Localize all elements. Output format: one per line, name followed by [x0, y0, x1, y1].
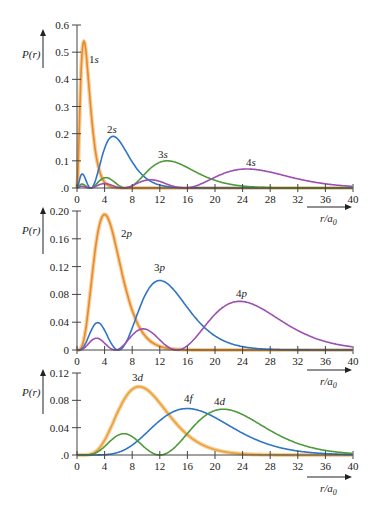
- panel-s-orbitals: .00.10.20.30.40.50.60481216202428323640 …: [21, 19, 359, 227]
- y-axis-label: P(r): [21, 48, 41, 61]
- x-tick-label: 28: [265, 355, 277, 367]
- axes-p: 00.040.080.120.160.200481216202428323640: [50, 205, 359, 367]
- x-tick-label: 40: [348, 460, 360, 472]
- panel-p-orbitals: 00.040.080.120.160.200481216202428323640…: [21, 205, 359, 390]
- x-tick-label: 32: [292, 460, 303, 472]
- x-tick-label: 12: [154, 193, 165, 205]
- y-tick-label: .0: [61, 182, 70, 194]
- x-axis-label: r/a0: [320, 482, 337, 497]
- label-4s: 4s: [246, 156, 256, 168]
- x-tick-label: 16: [182, 193, 194, 205]
- y-tick-label: 0.20: [50, 205, 70, 217]
- x-tick-label: 28: [265, 193, 277, 205]
- x-tick-label: 24: [237, 193, 249, 205]
- x-tick-label: 8: [129, 193, 135, 205]
- y-tick-label: 0.6: [55, 19, 69, 31]
- curves-p: [77, 215, 352, 351]
- x-tick-label: 8: [129, 460, 135, 472]
- x-tick-label: 16: [182, 460, 194, 472]
- x-tick-label: 24: [237, 355, 249, 367]
- x-tick-label: 32: [292, 355, 303, 367]
- label-4d: 4d: [214, 395, 226, 407]
- radial-probability-figure: .00.10.20.30.40.50.60481216202428323640 …: [0, 0, 381, 512]
- label-3p: 3p: [154, 261, 166, 273]
- x-tick-label: 32: [292, 193, 303, 205]
- y-tick-label: 0.5: [55, 46, 69, 58]
- x-tick-label: 28: [265, 460, 277, 472]
- x-axis-label: r/a0: [320, 375, 337, 390]
- x-tick-label: 12: [154, 355, 165, 367]
- x-tick-label: 36: [320, 193, 332, 205]
- label-4f: 4f: [184, 392, 195, 404]
- y-arrow-head-icon: [40, 369, 46, 376]
- x-tick-label: 20: [210, 355, 222, 367]
- x-tick-label: 36: [320, 460, 332, 472]
- y-tick-label: 0.12: [50, 261, 69, 273]
- y-tick-label: 0.3: [55, 101, 69, 113]
- x-tick-label: 0: [74, 193, 80, 205]
- y-tick-label: 0.04: [50, 316, 70, 328]
- x-tick-label: 16: [182, 355, 194, 367]
- curve-1s: [77, 41, 352, 188]
- y-tick-label: 0.04: [50, 422, 70, 434]
- x-tick-label: 24: [237, 460, 249, 472]
- y-tick-label: .0: [61, 449, 70, 461]
- x-tick-label: 0: [74, 355, 80, 367]
- y-tick-label: 0.08: [50, 288, 70, 300]
- x-tick-label: 4: [102, 355, 108, 367]
- x-arrow-head-icon: [345, 474, 352, 480]
- curve-3s: [77, 161, 352, 188]
- label-3d: 3d: [132, 371, 144, 383]
- label-3s: 3s: [158, 148, 168, 160]
- y-arrow-head-icon: [40, 29, 46, 36]
- y-tick-label: 0.08: [50, 394, 70, 406]
- y-tick-label: 0.12: [50, 367, 69, 379]
- x-tick-label: 40: [348, 193, 360, 205]
- x-tick-label: 4: [102, 460, 108, 472]
- y-tick-label: 0: [64, 344, 70, 356]
- x-tick-label: 20: [210, 193, 222, 205]
- label-2s: 2s: [107, 123, 117, 135]
- x-tick-label: 4: [102, 193, 108, 205]
- label-4p: 4p: [236, 287, 248, 299]
- x-axis-label: r/a0: [320, 212, 337, 227]
- label-2p: 2p: [121, 227, 133, 239]
- y-axis-label: P(r): [21, 224, 41, 237]
- curve-4p: [77, 301, 352, 350]
- y-tick-label: 0.1: [55, 155, 69, 167]
- x-tick-label: 8: [129, 355, 135, 367]
- panel-d-f-orbitals: .00.040.080.120481216202428323640 P(r) 3…: [21, 367, 359, 497]
- x-tick-label: 20: [210, 460, 222, 472]
- y-arrow-head-icon: [40, 207, 46, 214]
- x-arrow-head-icon: [345, 367, 352, 373]
- y-tick-label: 0.2: [55, 128, 69, 140]
- label-1s: 1s: [89, 53, 99, 65]
- y-tick-label: 0.4: [55, 73, 69, 85]
- x-tick-label: 40: [348, 355, 360, 367]
- curves-s: [77, 41, 352, 188]
- y-tick-label: 0.16: [50, 233, 70, 245]
- x-tick-label: 12: [154, 460, 165, 472]
- x-tick-label: 36: [320, 355, 332, 367]
- y-axis-label: P(r): [21, 386, 41, 399]
- x-tick-label: 0: [74, 460, 80, 472]
- curve-2p: [77, 215, 352, 351]
